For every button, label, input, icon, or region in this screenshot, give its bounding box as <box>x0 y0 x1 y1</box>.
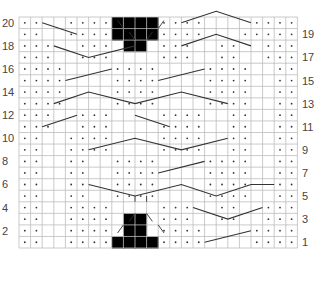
purl-dot <box>163 137 165 139</box>
purl-dot <box>24 172 26 174</box>
purl-dot <box>233 45 235 47</box>
purl-dot <box>105 241 107 243</box>
purl-dot <box>291 137 293 139</box>
purl-dot <box>47 80 49 82</box>
purl-dot <box>128 80 130 82</box>
purl-dot <box>82 160 84 162</box>
purl-dot <box>291 172 293 174</box>
purl-dot <box>117 91 119 93</box>
purl-dot <box>233 218 235 220</box>
purl-dot <box>175 45 177 47</box>
purl-dot <box>70 22 72 24</box>
purl-dot <box>152 172 154 174</box>
purl-dot <box>36 137 38 139</box>
purl-dot <box>175 126 177 128</box>
purl-dot <box>175 207 177 209</box>
purl-dot <box>70 207 72 209</box>
purl-dot <box>36 207 38 209</box>
purl-dot <box>36 218 38 220</box>
purl-dot <box>24 149 26 151</box>
row-label-left: 12 <box>2 109 17 121</box>
decrease-tick <box>158 225 164 233</box>
purl-dot <box>47 114 49 116</box>
purl-dot <box>152 103 154 105</box>
purl-dot <box>105 45 107 47</box>
purl-dot <box>291 68 293 70</box>
purl-dot <box>105 230 107 232</box>
purl-dot <box>152 184 154 186</box>
purl-dot <box>70 137 72 139</box>
purl-dot <box>128 103 130 105</box>
purl-dot <box>244 149 246 151</box>
row-label-right: 7 <box>302 167 322 179</box>
purl-dot <box>140 184 142 186</box>
purl-dot <box>186 33 188 35</box>
purl-dot <box>82 172 84 174</box>
purl-dot <box>70 230 72 232</box>
purl-dot <box>291 114 293 116</box>
purl-dot <box>82 241 84 243</box>
no-stitch-cell <box>112 29 124 41</box>
purl-dot <box>279 241 281 243</box>
purl-dot <box>163 22 165 24</box>
purl-dot <box>186 149 188 151</box>
purl-dot <box>36 114 38 116</box>
row-label-right: 1 <box>302 236 322 248</box>
purl-dot <box>233 57 235 59</box>
grid-lines <box>19 17 297 248</box>
purl-dot <box>221 68 223 70</box>
purl-dot <box>291 33 293 35</box>
cable-chart <box>0 0 323 295</box>
purl-dot <box>256 241 258 243</box>
no-stitch-cell <box>135 225 147 237</box>
purl-dot <box>36 91 38 93</box>
purl-dot <box>268 22 270 24</box>
no-stitch-cell <box>147 29 159 41</box>
no-stitch-cell <box>123 17 135 29</box>
purl-dot <box>163 241 165 243</box>
purl-dot <box>36 80 38 82</box>
purl-dot <box>47 91 49 93</box>
purl-dot <box>268 218 270 220</box>
purl-dot <box>233 68 235 70</box>
purl-dot <box>186 137 188 139</box>
purl-dot <box>140 195 142 197</box>
purl-dot <box>24 160 26 162</box>
no-stitch-cell <box>135 236 147 248</box>
purl-dot <box>24 218 26 220</box>
purl-dot <box>244 80 246 82</box>
purl-dot <box>279 207 281 209</box>
purl-dot <box>163 126 165 128</box>
purl-dot <box>128 68 130 70</box>
no-stitch-cell <box>135 29 147 41</box>
purl-dot <box>163 149 165 151</box>
purl-dot <box>36 195 38 197</box>
purl-dot <box>82 184 84 186</box>
row-label-right: 11 <box>302 121 322 133</box>
purl-dot <box>82 195 84 197</box>
purl-dot <box>36 184 38 186</box>
purl-dot <box>279 57 281 59</box>
purl-dot <box>94 218 96 220</box>
row-label-right: 15 <box>302 75 322 87</box>
purl-dot <box>279 172 281 174</box>
purl-dot <box>24 33 26 35</box>
row-label-right: 5 <box>302 190 322 202</box>
purl-dot <box>244 137 246 139</box>
row-label-left: 20 <box>2 17 17 29</box>
purl-dot <box>233 114 235 116</box>
purl-dot <box>279 149 281 151</box>
purl-dot <box>244 160 246 162</box>
purl-dot <box>36 230 38 232</box>
purl-dot <box>82 45 84 47</box>
purl-dot <box>244 91 246 93</box>
row-label-right: 13 <box>302 98 322 110</box>
purl-dot <box>47 45 49 47</box>
purl-dot <box>24 68 26 70</box>
purl-dot <box>82 218 84 220</box>
purl-dot <box>268 207 270 209</box>
purl-dot <box>221 207 223 209</box>
purl-dot <box>210 195 212 197</box>
purl-dot <box>36 103 38 105</box>
purl-dot <box>152 160 154 162</box>
